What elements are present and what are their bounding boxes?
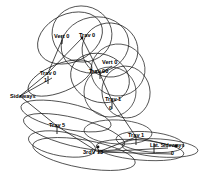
node-label-group: Vert 0 Trav 0 Vert 0 Trav 00 Trav 0 1 Si… [10, 32, 184, 156]
uncertainty-ellipse [76, 17, 144, 84]
node-label-vert-0-top: Vert 0 [54, 33, 69, 39]
node-label-trav-0-left: Trav 0 [40, 70, 56, 76]
figure-canvas: Vert 0 Trav 0 Vert 0 Trav 00 Trav 0 1 Si… [0, 0, 206, 190]
node-label-sideways: Sideways [10, 93, 36, 99]
pose-graph-figure: Vert 0 Trav 0 Vert 0 Trav 00 Trav 0 1 Si… [0, 0, 206, 190]
graph-edge [98, 148, 168, 152]
node-label-trav-00: Trav 00 [89, 68, 108, 74]
node-label-trav-0-top: Trav 0 [79, 32, 95, 38]
graph-edge [48, 38, 82, 73]
node-label-index-0-right: 0 [171, 150, 174, 156]
node-label-trav-5: Trav 5 [49, 122, 65, 128]
node-label-trav-1-mid: Trav 1 [105, 96, 121, 102]
node-label-vert-0-mid: Vert 0 [102, 59, 117, 65]
node-label-3rdv-13: 3rdV 13 [83, 149, 103, 155]
node-label-lat-sideways: Lat. Sideways [150, 142, 184, 148]
node-label-index-1: 1 [44, 77, 47, 83]
node-label-trav-1-right: Trav 1 [128, 132, 144, 138]
uncertainty-ellipse [29, 2, 111, 74]
node-marker [97, 146, 100, 149]
node-label-index-0-mid: 0 [109, 105, 112, 111]
uncertainty-ellipse [121, 136, 198, 159]
